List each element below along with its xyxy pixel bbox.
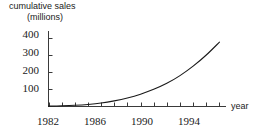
x-axis-ticks [50, 103, 220, 107]
y-axis-ticks [49, 39, 53, 90]
plot-area [0, 0, 263, 135]
sales-curve [49, 42, 220, 106]
chart-container: cumulative sales (millions) year 400 300… [0, 0, 263, 135]
